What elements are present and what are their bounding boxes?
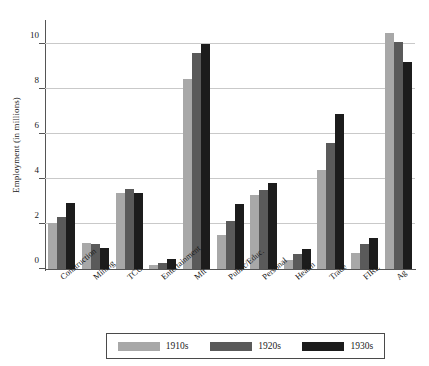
legend-item: 1920s [210,341,281,351]
bar [201,44,210,269]
y-axis-tick [39,178,45,179]
y-axis-tick [39,88,45,89]
y-axis-tick-label: 8 [21,76,39,85]
bar [317,170,326,269]
y-axis-tick-label: 2 [21,211,39,220]
y-axis-tick-label: 0 [21,256,39,265]
legend-item: 1930s [302,341,373,351]
legend-swatch [118,342,160,351]
bar [394,42,403,269]
chart-legend: 1910s1920s1930s [106,333,385,359]
legend-swatch [302,342,344,351]
legend-swatch [210,342,252,351]
bar-group [217,22,244,269]
y-axis-tick [39,268,45,269]
y-axis-tick [39,133,45,134]
bar [134,193,143,269]
bar-group [385,22,412,269]
plot-area: 0246810 [45,22,415,269]
bar-group [250,22,277,269]
bar [183,79,192,269]
bar [217,235,226,269]
y-axis-tick-label: 10 [21,31,39,40]
bar-group [317,22,344,269]
bar [57,217,66,269]
y-axis-tick [39,43,45,44]
y-axis-title-text: Employment (in millions) [11,97,21,193]
bar [403,62,412,269]
bar [385,33,394,269]
bar [48,223,57,269]
legend-label: 1910s [166,341,189,351]
bar [351,253,360,269]
bar [268,183,277,269]
bar [335,114,344,269]
bar [360,244,369,269]
bar [125,189,134,269]
bar-group [48,22,75,269]
bar [326,143,335,269]
bar-group [351,22,378,269]
bar-group [116,22,143,269]
bar [116,193,125,269]
legend-item: 1910s [118,341,189,351]
bar-group [183,22,210,269]
bar-chart-figure: Employment (in millions) 0246810 Constru… [0,0,429,366]
bar-group [149,22,176,269]
legend-label: 1920s [258,341,281,351]
bar [192,53,201,269]
bar-group [82,22,109,269]
y-axis-title: Employment (in millions) [6,0,26,290]
legend-label: 1930s [350,341,373,351]
y-axis-tick-label: 4 [21,166,39,175]
y-axis-tick-label: 6 [21,121,39,130]
bar-group [284,22,311,269]
bar [226,221,235,269]
bar [149,265,158,269]
y-axis-tick [39,223,45,224]
